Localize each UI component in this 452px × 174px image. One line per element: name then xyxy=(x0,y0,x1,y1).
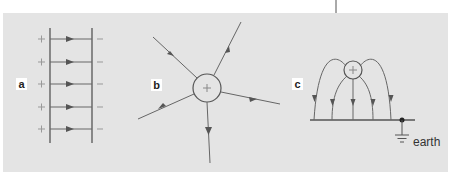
diagram-b-radial-field xyxy=(138,22,280,163)
field-diagrams xyxy=(0,0,452,174)
panel-label-c: c xyxy=(292,78,303,90)
diagram-c-earthed-plate xyxy=(310,59,415,142)
uniform-field-lines xyxy=(50,36,92,132)
plus-signs xyxy=(38,36,45,133)
diagram-a-parallel-plates xyxy=(38,28,103,143)
minus-signs xyxy=(97,39,103,129)
earth-label: earth xyxy=(413,135,440,149)
panel-label-b: b xyxy=(151,79,162,91)
panel-label-a: a xyxy=(16,78,27,90)
